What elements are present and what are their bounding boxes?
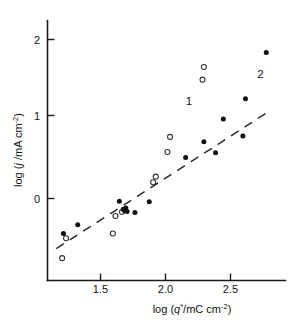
curve-annotations: 12 <box>186 68 264 107</box>
data-point-open <box>64 236 69 241</box>
series-2 <box>61 50 269 236</box>
y-label-exp: -2 <box>11 117 20 124</box>
data-point-filled <box>75 222 80 227</box>
data-point-filled <box>183 155 188 160</box>
data-point-filled <box>117 199 122 204</box>
x-tick-labels: 1.5 2.0 2.5 <box>93 283 238 295</box>
data-point-filled <box>240 134 245 139</box>
data-point-open <box>153 174 158 179</box>
data-point-open <box>200 77 205 82</box>
y-axis-label: log (j /mA cm-2) <box>11 113 24 187</box>
y-tick-label-0: 0 <box>34 193 40 205</box>
data-point-open <box>60 256 65 261</box>
data-point-filled <box>61 231 66 236</box>
scatter-plot: 2 1 0 1.5 2.0 2.5 log (j /mA cm-2) log (… <box>0 0 293 328</box>
x-tick-label-1p5: 1.5 <box>93 283 108 295</box>
y-label-post: ) <box>12 113 24 117</box>
data-point-open <box>110 231 115 236</box>
x-tick-label-2p5: 2.5 <box>223 283 238 295</box>
data-point-open <box>168 134 173 139</box>
x-label-post: ) <box>228 303 232 315</box>
y-tick-label-2: 2 <box>34 34 40 46</box>
y-ticks <box>48 40 55 199</box>
data-point-open <box>151 180 156 185</box>
x-axis-label: log (q*/mC cm-2) <box>153 302 232 315</box>
data-point-filled <box>132 210 137 215</box>
data-point-filled <box>243 96 248 101</box>
series-1 <box>60 64 207 260</box>
figure-container: 2 1 0 1.5 2.0 2.5 log (j /mA cm-2) log (… <box>0 0 293 328</box>
data-point-filled <box>213 150 218 155</box>
x-ticks <box>101 274 231 281</box>
data-markers <box>60 50 269 261</box>
dashed-trend-line <box>56 111 269 249</box>
data-point-filled <box>125 209 130 214</box>
y-label-mid: /mA cm <box>12 123 24 163</box>
data-point-open <box>113 213 118 218</box>
data-point-filled <box>264 50 269 55</box>
x-label-exp: -2 <box>221 302 228 311</box>
svg-text:log (q*/mC cm-2): log (q*/mC cm-2) <box>153 302 232 315</box>
data-point-filled <box>147 199 152 204</box>
data-point-open <box>201 64 206 69</box>
x-label-mid: /mC cm <box>183 303 221 315</box>
data-point-open <box>165 149 170 154</box>
curve-label-1: 1 <box>186 95 192 107</box>
x-tick-label-2p0: 2.0 <box>158 283 173 295</box>
x-label-pre: log ( <box>153 303 175 315</box>
svg-text:log (j /mA cm-2): log (j /mA cm-2) <box>11 113 24 187</box>
y-label-pre: log ( <box>12 165 24 187</box>
data-point-filled <box>201 139 206 144</box>
curve-label-2: 2 <box>257 68 263 80</box>
data-point-filled <box>221 117 226 122</box>
y-tick-labels: 2 1 0 <box>34 34 40 205</box>
y-tick-label-1: 1 <box>34 110 40 122</box>
